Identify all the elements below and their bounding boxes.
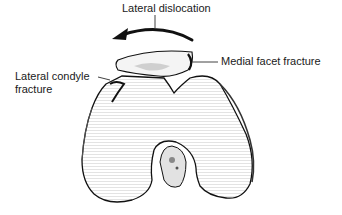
label-lateral-condyle-fracture: Lateral condyle fracture <box>15 70 90 96</box>
label-lateral-dislocation: Lateral dislocation <box>122 2 211 15</box>
lateral-leader-line <box>98 77 110 80</box>
label-medial-facet-fracture: Medial facet fracture <box>221 55 321 68</box>
patella-icon <box>116 51 193 76</box>
femur-icon <box>82 76 254 202</box>
label-line-1: Lateral condyle <box>15 70 90 83</box>
dislocation-arrow-icon <box>112 15 192 40</box>
label-line-2: fracture <box>15 83 90 96</box>
knee-illustration <box>0 0 342 215</box>
